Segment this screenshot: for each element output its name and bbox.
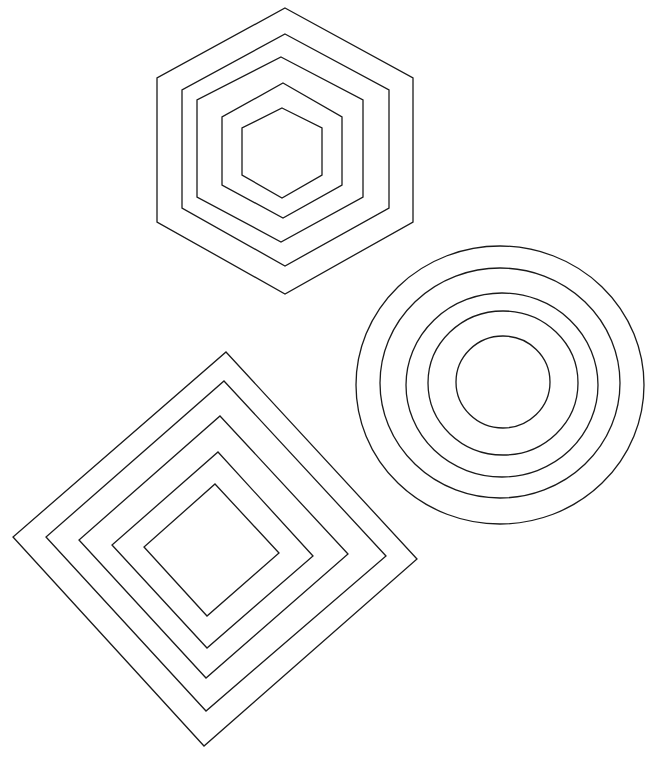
diagram-canvas — [0, 0, 651, 767]
circle-ring-1 — [356, 246, 644, 524]
concentric-diamonds — [13, 352, 417, 746]
diamond-ring-5 — [144, 484, 279, 616]
hexagon-ring-1 — [157, 8, 413, 294]
circle-ring-4 — [428, 311, 578, 455]
circle-ring-2 — [380, 268, 620, 498]
circle-ring-3 — [406, 293, 598, 477]
hexagon-ring-2 — [182, 34, 389, 266]
concentric-circles — [356, 246, 644, 524]
hexagon-ring-5 — [242, 108, 322, 198]
circle-ring-5 — [456, 336, 550, 428]
concentric-hexagons — [157, 8, 413, 294]
diamond-ring-4 — [112, 452, 313, 648]
diamond-ring-1 — [13, 352, 417, 746]
shapes-drawing — [0, 0, 651, 767]
diamond-ring-2 — [46, 381, 386, 711]
